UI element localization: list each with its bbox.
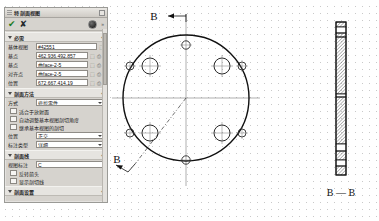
row-base-point-1[interactable]: 基点 462.936,492.857 ⬚ ⎙ · [5,51,107,60]
checkbox-box[interactable] [10,108,17,115]
chevron-down-icon [98,135,102,137]
chevron-down-icon [8,190,12,193]
lock-icon[interactable]: ⎙ [96,53,101,59]
scrollbar-thumb[interactable] [103,33,107,85]
section-header-required[interactable]: 必需 + [5,32,107,42]
row-base-view[interactable]: 基体视图 #42551 ⬚ [5,42,107,51]
method-dropdown-value: 修剪零件 [38,99,98,106]
method-dropdown[interactable]: 修剪零件 [36,99,104,106]
chevron-down-icon [98,102,102,104]
row-label: 基点 [8,52,34,59]
pick-icon[interactable]: ⬚ [90,53,95,59]
pick-icon[interactable]: ⬚ [90,62,95,68]
checkbox-inherit-base-cut[interactable]: 继承基本视图的剖切 [5,123,107,131]
section-view-title: B — B [327,187,356,198]
row-position[interactable]: 位置 672.667,414.19 ⬚ ⎙ · [5,78,107,87]
section-marker-top[interactable]: B [150,10,186,22]
row-label: 位置 [8,79,34,86]
position-coord-input[interactable]: 672.667,414.19 [36,79,88,86]
lock-icon[interactable]: ⎙ [96,62,101,68]
section-view-bb[interactable]: B — B [327,22,356,198]
row-label: 基点 [8,61,34,68]
chevron-down-icon [8,92,12,95]
filled-circle-icon[interactable] [88,20,97,29]
overflow-icon[interactable]: » [101,21,104,27]
row-base-point-2[interactable]: 基点 曲face-2-5 ⬚ ⎙ · [5,60,107,69]
pick-icon[interactable]: ⬚ [90,71,95,77]
section-marker-bottom[interactable]: B [113,153,135,172]
checkbox-label: 自动调整基本视图剖切角度 [19,116,79,123]
chevron-down-icon [98,144,102,146]
panel-scrollbar[interactable] [102,29,107,202]
confirm-check-icon[interactable]: ✔ [8,20,16,29]
row-label-type[interactable]: 标注类型 详细 [5,140,107,149]
chevron-down-icon [8,154,12,157]
row-align-point[interactable]: 对齐点 曲face-2-5 ⬚ ⎙ · [5,69,107,78]
checkbox-box[interactable] [10,116,17,123]
base-point-ref-input[interactable]: 曲face-2-5 [36,61,88,68]
checkbox-label: 适合于放射面 [19,108,49,115]
drag-grip-icon [7,10,12,15]
section-label-bottom: B [113,153,120,165]
checkbox-reverse-arrow[interactable]: 反转箭头 [5,169,107,177]
cad-drawing-area[interactable]: B B B — B [108,0,379,221]
base-view-input[interactable]: #42551 [36,43,97,50]
pick-icon[interactable]: ⬚ [90,80,95,86]
checkbox-box[interactable] [10,178,17,185]
panel-toolbar[interactable]: ✔ ✘ » [5,18,107,31]
row-method[interactable]: 方式 修剪零件 [5,98,107,107]
checkbox-auto-adjust-angle[interactable]: 自动调整基本视图剖切角度 [5,115,107,123]
panel-title-text: 特 剖面视图 [14,9,40,16]
checkbox-label: 反转箭头 [19,170,39,177]
row-label: 基体视图 [8,43,34,50]
checkbox-label: 显示剖切线 [19,178,44,185]
section-header-label: 剖面设置 [14,188,34,195]
section-header-label: 剖面线 [14,152,29,159]
panel-menu-icon[interactable] [99,10,105,16]
row-label: 对齐点 [8,70,34,77]
lock-icon[interactable]: ⎙ [96,71,101,77]
row-view-label[interactable]: 视图标注 C [5,160,107,169]
section-header-label: 剖面方法 [14,90,34,97]
checkbox-label: 继承基本视图的剖切 [19,124,64,131]
section-header-hatch[interactable]: 剖面线 + [5,150,107,160]
orientation-dropdown[interactable]: 正交 [36,132,104,139]
checkbox-box[interactable] [10,124,17,131]
section-header-section-method[interactable]: 剖面方法 + [5,88,107,98]
checkbox-fit-radial[interactable]: 适合于放射面 [5,107,107,115]
orientation-dropdown-value: 正交 [38,132,98,139]
checkbox-box[interactable] [10,170,17,177]
row-orientation[interactable]: 位置 正交 [5,131,107,140]
base-point-coord-input[interactable]: 462.936,492.857 [36,52,88,59]
view-label-input[interactable]: C [36,161,104,168]
row-label: 标注类型 [8,141,34,148]
cancel-cross-icon[interactable]: ✘ [20,20,28,29]
align-point-input[interactable]: 曲face-2-5 [36,70,88,77]
panel-title-bar[interactable]: 特 剖面视图 [5,8,107,18]
row-label: 视图标注 [8,161,34,168]
section-header-label: 必需 [14,34,24,41]
section-view-property-panel[interactable]: 特 剖面视图 ✔ ✘ » 必需 + 基体视图 #42551 ⬚ 基点 462.9… [4,7,108,203]
lock-icon[interactable]: ⎙ [96,80,101,86]
checkbox-show-cut-line[interactable]: 显示剖切线 [5,177,107,185]
label-type-dropdown[interactable]: 详细 [36,141,104,148]
section-label-top: B [150,10,157,22]
chevron-down-icon [8,36,12,39]
label-type-dropdown-value: 详细 [38,141,98,148]
section-header-section-settings[interactable]: 剖面设置 + [5,186,107,196]
row-label: 方式 [8,99,34,106]
row-label: 位置 [8,132,34,139]
